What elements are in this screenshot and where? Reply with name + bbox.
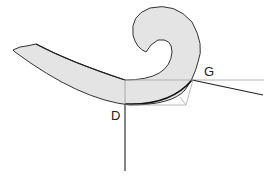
label-d: D [111, 108, 120, 123]
tangent-line-g [192, 80, 263, 95]
french-curve-shape [13, 7, 200, 105]
diagram-canvas: D G [0, 0, 272, 183]
label-g: G [204, 64, 214, 79]
